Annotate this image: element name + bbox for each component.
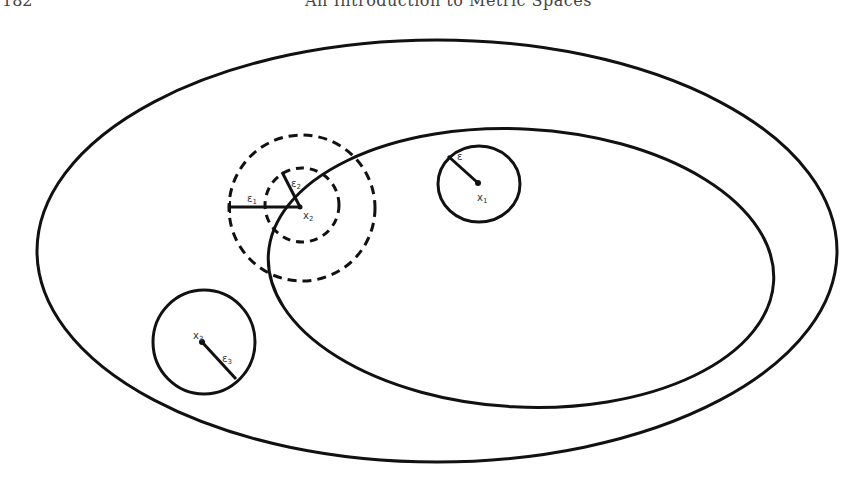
x1-point	[475, 180, 481, 186]
outer-space-ellipse	[37, 40, 837, 462]
x2-inner-ball-dashed	[265, 168, 339, 242]
x2-eps2-label: ε2	[291, 178, 301, 191]
x1-radius	[448, 156, 478, 183]
x2-label: x2	[303, 210, 313, 223]
inner-set-ellipse	[261, 116, 781, 420]
x1-label: x1	[477, 192, 487, 205]
x1-radius-label: ε	[457, 151, 462, 162]
x3-label: x3	[193, 330, 203, 343]
open-set-diagram: ε x1 ε1 ε2 x2 x3 ε3	[0, 0, 865, 482]
x2-point	[298, 205, 303, 210]
x2-eps1-label: ε1	[247, 193, 257, 206]
